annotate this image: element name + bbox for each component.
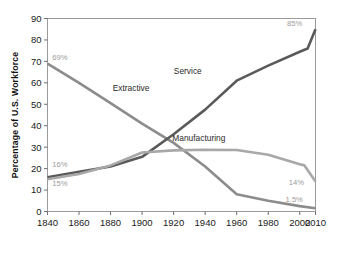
y-tick-label: 90 bbox=[31, 13, 42, 24]
y-tick-label: 20 bbox=[31, 163, 42, 174]
y-axis-title: Percentage of U.S. Workforce bbox=[10, 52, 20, 178]
y-tick-label: 70 bbox=[31, 56, 42, 67]
value-annotation-manufacturing-start: 15% bbox=[52, 179, 67, 188]
x-tick-label: 1840 bbox=[37, 217, 58, 228]
chart-canvas: 0102030405060708090 18401860188019001920… bbox=[0, 0, 341, 253]
plot-area-frame bbox=[48, 19, 316, 212]
value-annotation-extractive-start: 69% bbox=[52, 53, 67, 62]
x-tick-label: 1980 bbox=[258, 217, 279, 228]
series-label-service: Service bbox=[174, 66, 202, 76]
x-tick-label: 1940 bbox=[195, 217, 216, 228]
value-annotation-service-start: 16% bbox=[52, 160, 67, 169]
x-tick-label: 1920 bbox=[163, 217, 184, 228]
y-tick-label: 30 bbox=[31, 142, 42, 153]
value-annotation-extractive-end: 1.5% bbox=[286, 195, 304, 204]
y-tick-label: 0 bbox=[36, 206, 41, 217]
y-tick-label: 60 bbox=[31, 77, 42, 88]
series-label-manufacturing: Manufacturing bbox=[172, 133, 225, 143]
line-chart: 0102030405060708090 18401860188019001920… bbox=[0, 0, 341, 253]
x-tick-label: 1960 bbox=[226, 217, 247, 228]
value-annotation-manufacturing-end: 14% bbox=[289, 178, 304, 187]
x-tick-label: 1860 bbox=[68, 217, 89, 228]
series-label-extractive: Extractive bbox=[113, 83, 150, 93]
y-tick-label: 50 bbox=[31, 99, 42, 110]
y-tick-label: 80 bbox=[31, 34, 42, 45]
x-tick-label: 1900 bbox=[132, 217, 153, 228]
x-tick-label: 2010 bbox=[305, 217, 326, 228]
x-tick-label: 1880 bbox=[100, 217, 121, 228]
value-annotation-service-end: 85% bbox=[287, 19, 302, 28]
y-tick-label: 40 bbox=[31, 120, 42, 131]
y-tick-label: 10 bbox=[31, 184, 42, 195]
